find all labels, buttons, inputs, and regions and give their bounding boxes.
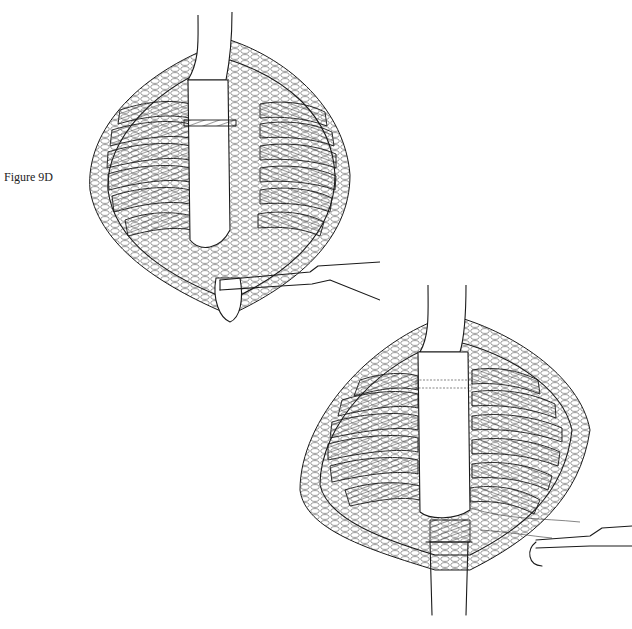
surgical-illustration-bottom — [290, 280, 632, 629]
